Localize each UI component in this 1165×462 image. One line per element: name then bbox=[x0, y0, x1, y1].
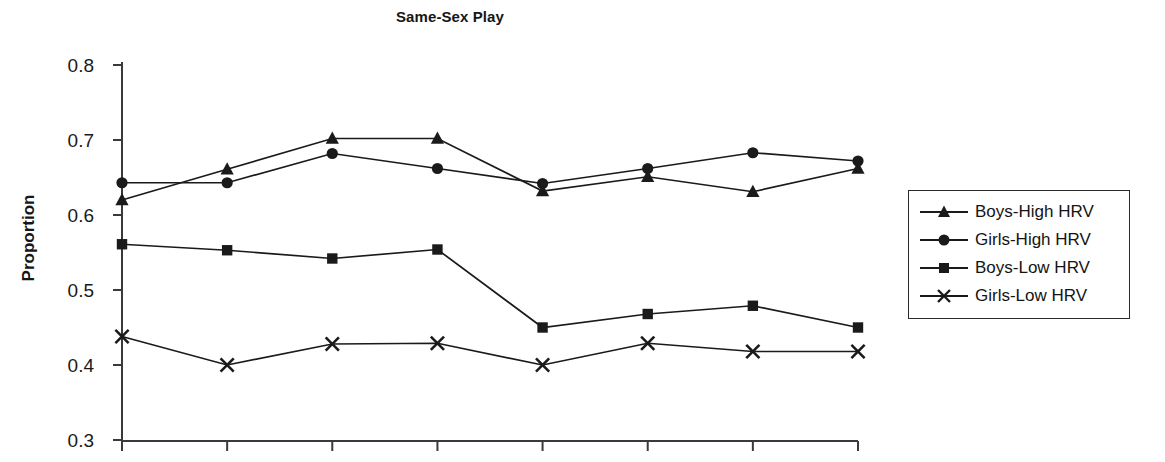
circle-marker-icon bbox=[432, 163, 443, 174]
square-marker-icon bbox=[222, 245, 232, 255]
series-line bbox=[122, 139, 858, 201]
cross-marker-icon bbox=[536, 358, 549, 371]
circle-marker-icon bbox=[537, 178, 548, 189]
circle-marker-icon bbox=[918, 230, 970, 250]
triangle-marker-icon bbox=[431, 132, 444, 144]
circle-marker-icon bbox=[852, 155, 863, 166]
square-marker-icon bbox=[918, 258, 970, 278]
series-girls-low-hrv bbox=[115, 330, 864, 372]
square-marker-icon bbox=[748, 301, 758, 311]
square-marker-icon bbox=[432, 244, 442, 254]
triangle-marker-icon bbox=[326, 132, 339, 144]
circle-marker-icon bbox=[642, 163, 653, 174]
square-marker-icon bbox=[853, 322, 863, 332]
chart-legend: Boys-High HRV Girls-High HRV Boys-Low HR… bbox=[908, 190, 1130, 319]
series-line bbox=[122, 244, 858, 327]
data-series-group bbox=[115, 132, 864, 372]
circle-marker-icon bbox=[116, 177, 127, 188]
circle-marker-icon bbox=[327, 148, 338, 159]
chart-figure: Same-Sex Play Proportion 0.8 0.7 0.6 0.5… bbox=[0, 0, 1165, 462]
square-marker-icon bbox=[537, 322, 547, 332]
series-boys-high-hrv bbox=[115, 132, 864, 206]
axes bbox=[113, 62, 858, 451]
legend-item-girls-low-hrv: Girls-Low HRV bbox=[909, 282, 1129, 310]
cross-marker-icon bbox=[221, 358, 234, 371]
circle-marker-icon bbox=[747, 147, 758, 158]
circle-marker-icon bbox=[222, 177, 233, 188]
triangle-marker-icon bbox=[918, 202, 970, 222]
legend-label: Girls-High HRV bbox=[970, 230, 1091, 250]
legend-label: Girls-Low HRV bbox=[970, 286, 1087, 306]
square-marker-icon bbox=[117, 239, 127, 249]
legend-item-boys-low-hrv: Boys-Low HRV bbox=[909, 254, 1129, 282]
y-axis-ticks bbox=[113, 65, 122, 440]
legend-label: Boys-High HRV bbox=[970, 202, 1094, 222]
cross-marker-icon bbox=[918, 286, 970, 306]
square-marker-icon bbox=[327, 253, 337, 263]
legend-label: Boys-Low HRV bbox=[970, 258, 1090, 278]
series-boys-low-hrv bbox=[117, 239, 863, 333]
square-marker-icon bbox=[643, 309, 653, 319]
legend-item-girls-high-hrv: Girls-High HRV bbox=[909, 226, 1129, 254]
legend-item-boys-high-hrv: Boys-High HRV bbox=[909, 198, 1129, 226]
x-axis-ticks bbox=[122, 441, 858, 451]
